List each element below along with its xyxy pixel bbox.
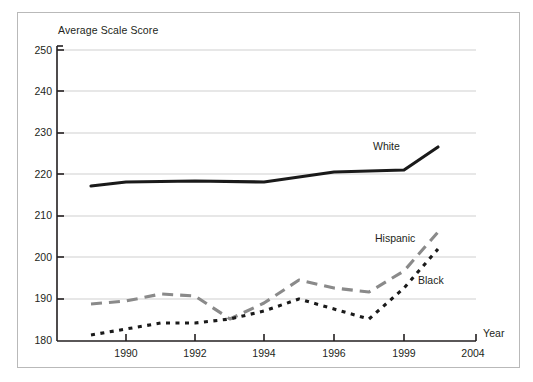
series-label-white: White <box>373 140 400 152</box>
series-line-white <box>91 147 438 186</box>
x-axis-line <box>57 334 476 341</box>
series-line-black <box>91 249 438 335</box>
line-chart: Average Scale Score Year 250 240 230 220… <box>0 0 533 382</box>
y-axis-line <box>57 46 64 341</box>
series-label-black: Black <box>418 274 444 286</box>
plot-canvas <box>0 0 533 382</box>
series-label-hispanic: Hispanic <box>375 232 415 244</box>
